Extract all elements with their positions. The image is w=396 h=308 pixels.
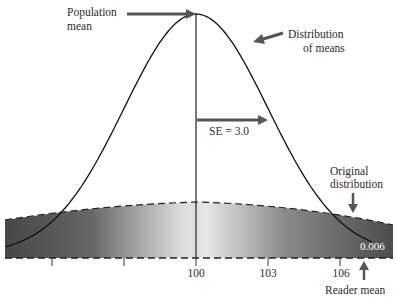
population-mean-label-line1: Population bbox=[67, 6, 117, 19]
se-label: SE = 3.0 bbox=[209, 125, 249, 138]
original-distribution-label-line1: Original bbox=[330, 165, 368, 178]
tick-label-100: 100 bbox=[187, 267, 204, 279]
tail-probability-label: 0.006 bbox=[360, 240, 385, 253]
population-mean-label-line2: mean bbox=[67, 20, 92, 33]
reader-mean-label: Reader mean bbox=[325, 284, 385, 297]
tick-label-103: 103 bbox=[259, 267, 276, 279]
distribution-of-means-label-line1: Distribution bbox=[288, 28, 344, 41]
original-distribution-label-line2: distribution bbox=[330, 178, 383, 191]
distribution-of-means-label-line2: of means bbox=[303, 42, 345, 55]
x-axis-ticks bbox=[52, 258, 340, 266]
tick-label-106: 106 bbox=[332, 267, 349, 279]
